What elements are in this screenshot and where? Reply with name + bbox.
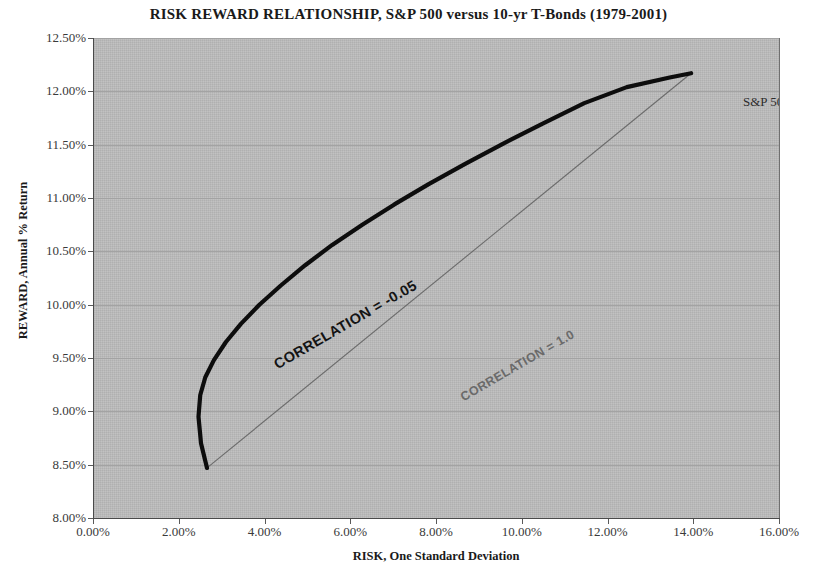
y-tickmark xyxy=(88,358,93,359)
x-axis-title: RISK, One Standard Deviation xyxy=(93,549,779,564)
y-tickmark xyxy=(88,91,93,92)
y-tick-label: 12.50% xyxy=(12,30,86,46)
chart-title: RISK REWARD RELATIONSHIP, S&P 500 versus… xyxy=(0,6,817,23)
y-axis-tick-labels: 8.00%8.50%9.00%9.50%10.00%10.50%11.00%11… xyxy=(8,0,86,581)
chart-root: RISK REWARD RELATIONSHIP, S&P 500 versus… xyxy=(0,0,817,581)
x-tickmark xyxy=(350,519,351,524)
y-tickmark xyxy=(88,305,93,306)
x-tickmark xyxy=(522,519,523,524)
y-tick-label: 10.00% xyxy=(12,297,86,313)
y-tickmark xyxy=(88,465,93,466)
x-tick-label: 12.00% xyxy=(563,524,653,540)
series-line-correlation-1 xyxy=(207,73,691,468)
x-tickmark xyxy=(608,519,609,524)
y-tickmark xyxy=(88,38,93,39)
y-tickmark xyxy=(88,145,93,146)
x-tickmark xyxy=(265,519,266,524)
x-tick-label: 0.00% xyxy=(48,524,138,540)
y-axis-line xyxy=(93,38,94,519)
series-svg xyxy=(93,38,779,518)
x-tick-label: 4.00% xyxy=(220,524,310,540)
plot-area: CORRELATION = -0.05 CORRELATION = 1.0 S&… xyxy=(93,38,780,519)
x-tick-label: 10.00% xyxy=(477,524,567,540)
x-tick-label: 2.00% xyxy=(134,524,224,540)
y-tick-label: 9.50% xyxy=(12,350,86,366)
y-tick-label: 10.50% xyxy=(12,243,86,259)
y-tick-label: 12.00% xyxy=(12,83,86,99)
x-tickmark xyxy=(93,519,94,524)
x-tickmark xyxy=(436,519,437,524)
x-tick-label: 16.00% xyxy=(734,524,817,540)
annotation-sp500: S&P 500 xyxy=(743,94,780,110)
y-tickmark xyxy=(88,198,93,199)
x-tick-label: 6.00% xyxy=(305,524,395,540)
x-tickmark xyxy=(693,519,694,524)
x-tick-label: 14.00% xyxy=(648,524,738,540)
x-tickmark xyxy=(179,519,180,524)
y-tick-label: 11.00% xyxy=(12,190,86,206)
y-tickmark xyxy=(88,251,93,252)
y-tick-label: 8.50% xyxy=(12,457,86,473)
y-tickmark xyxy=(88,411,93,412)
x-tickmark xyxy=(779,519,780,524)
series-curve-correlation-neg005 xyxy=(199,73,692,468)
x-tick-label: 8.00% xyxy=(391,524,481,540)
y-tick-label: 9.00% xyxy=(12,403,86,419)
y-tick-label: 11.50% xyxy=(12,137,86,153)
